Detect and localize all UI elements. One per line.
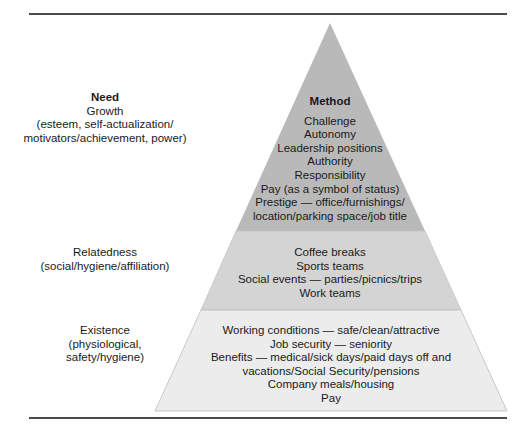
method-item: Challenge <box>230 115 430 129</box>
method-item: Company meals/housing <box>200 378 462 392</box>
need-relatedness-label: Relatedness (social/hygiene/affiliation) <box>20 246 190 273</box>
method-item: Pay (as a symbol of status) <box>230 183 430 197</box>
need-existence-label: Existence (physiological, safety/hygiene… <box>20 324 190 365</box>
need-existence-name: Existence <box>20 324 190 338</box>
method-header: Method <box>230 95 430 109</box>
method-item: Social events — parties/picnics/trips <box>210 273 450 287</box>
method-item: Responsibility <box>230 169 430 183</box>
method-item: vacations/Social Security/pensions <box>200 365 462 379</box>
method-bottom-tier-text: Working conditions — safe/clean/attracti… <box>200 324 462 406</box>
method-item: Leadership positions <box>230 142 430 156</box>
method-middle-tier-text: Coffee breaks Sports teams Social events… <box>210 246 450 300</box>
method-item: Coffee breaks <box>210 246 450 260</box>
need-growth-name: Growth <box>20 105 190 119</box>
need-growth-detail: motivators/achievement, power) <box>20 132 190 146</box>
need-relatedness-detail: (social/hygiene/affiliation) <box>20 260 190 274</box>
method-item: Job security — seniority <box>200 338 462 352</box>
need-header: Need <box>20 91 190 105</box>
need-growth-detail: (esteem, self-actualization/ <box>20 118 190 132</box>
method-item: Prestige — office/furnishings/ <box>230 196 430 210</box>
method-top-tier-text: Method Challenge Autonomy Leadership pos… <box>230 95 430 223</box>
need-existence-detail: (physiological, <box>20 338 190 352</box>
bottom-rule <box>29 417 507 419</box>
method-item: Authority <box>230 155 430 169</box>
method-item: Autonomy <box>230 128 430 142</box>
need-growth-label: Need Growth (esteem, self-actualization/… <box>20 91 190 145</box>
method-item: Work teams <box>210 287 450 301</box>
method-item: Sports teams <box>210 260 450 274</box>
method-item: Pay <box>200 392 462 406</box>
need-existence-detail: safety/hygiene) <box>20 351 190 365</box>
method-item: Working conditions — safe/clean/attracti… <box>200 324 462 338</box>
method-item: Benefits — medical/sick days/paid days o… <box>200 351 462 365</box>
need-relatedness-name: Relatedness <box>20 246 190 260</box>
method-item: location/parking space/job title <box>230 210 430 224</box>
